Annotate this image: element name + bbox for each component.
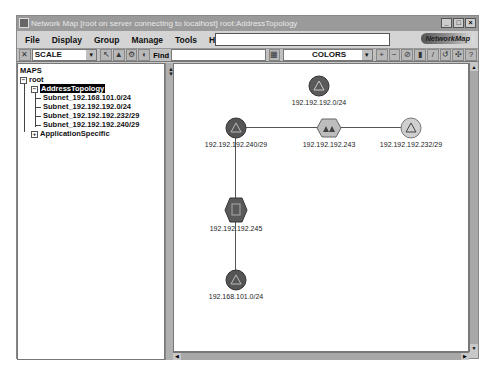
chevron-down-icon: ▼ <box>362 50 372 60</box>
scroll-up-icon[interactable]: ▲ <box>470 63 478 71</box>
menu-file[interactable]: File <box>25 35 40 45</box>
colors-select[interactable]: COLORS ▼ <box>283 49 372 61</box>
tree-node-subnet[interactable]: Subnet_192.192.192.232/29 <box>43 111 139 120</box>
vertical-scrollbar[interactable]: ▲ ▼ <box>469 63 478 352</box>
scale-select-value: SCALE <box>35 50 62 59</box>
close-tool-icon[interactable]: ✕ <box>19 49 31 61</box>
brand-logo: NetworkMap <box>421 33 474 44</box>
toolbar: ✕ SCALE ▼ ↖ ▲ ⚙ ◐ Find ▦ COLORS ▼ + − ⊘ … <box>17 48 478 62</box>
scroll-down-icon[interactable]: ▼ <box>470 344 478 352</box>
tree-node-label: AddressTopology <box>40 84 105 93</box>
menu-group[interactable]: Group <box>94 35 120 45</box>
undo-icon[interactable]: ↺ <box>440 49 452 61</box>
split-pane-divider[interactable]: ▲▼ <box>165 63 173 360</box>
node-label: 192.192.192.245 <box>210 225 263 232</box>
find-input[interactable] <box>171 49 265 61</box>
expand-icon[interactable]: + <box>31 131 38 138</box>
maximize-button[interactable]: □ <box>453 18 464 28</box>
network-layout-icon[interactable]: ⚙ <box>126 49 138 61</box>
scroll-right-icon[interactable]: ▶ <box>461 353 469 360</box>
tree-node-root[interactable]: −root <box>20 75 44 84</box>
collapse-icon[interactable]: − <box>20 77 27 84</box>
context-help-icon[interactable]: / <box>427 49 439 61</box>
close-button[interactable]: × <box>465 18 476 28</box>
node-label: 192.192.192.0/24 <box>292 99 347 106</box>
tree-node-subnet[interactable]: Subnet_192.168.101.0/24 <box>43 93 131 102</box>
menu-manage[interactable]: Manage <box>131 35 163 45</box>
zoom-in-icon[interactable]: + <box>376 49 388 61</box>
filter-tool-icon[interactable]: ◐ <box>138 49 150 61</box>
tree-connector <box>35 116 41 117</box>
minimize-button[interactable]: _ <box>441 18 452 28</box>
tree-connector <box>35 125 41 126</box>
subnet-node-icon[interactable] <box>308 75 330 97</box>
network-map-window: Network Map [root on server connecting t… <box>16 15 479 359</box>
tree-node-label: ApplicationSpecific <box>40 129 110 138</box>
refresh-icon[interactable]: ⊘ <box>401 49 413 61</box>
tree-connector <box>35 107 41 108</box>
zoom-out-icon[interactable]: − <box>389 49 401 61</box>
subnet-node-icon[interactable] <box>225 269 247 291</box>
subnet-node-icon[interactable] <box>400 117 422 139</box>
tree-node-subnet[interactable]: Subnet_192.192.192.240/29 <box>43 120 139 129</box>
tree-node-label: root <box>29 75 44 84</box>
tree-node-application-specific[interactable]: +ApplicationSpecific <box>31 129 110 138</box>
maps-tree-panel: MAPS −root −AddressTopology Subnet_192.1… <box>17 63 165 360</box>
tree-connector <box>24 84 25 132</box>
app-icon <box>19 18 29 28</box>
network-icon[interactable]: ✣ <box>452 49 464 61</box>
alarm-icon[interactable]: ▮ <box>414 49 426 61</box>
tree-node-address-topology[interactable]: −AddressTopology <box>31 84 105 93</box>
tree-node-subnet[interactable]: Subnet_192.192.192.0/24 <box>43 102 131 111</box>
find-label: Find <box>153 51 169 60</box>
title-bar[interactable]: Network Map [root on server connecting t… <box>17 16 478 31</box>
window-title: Network Map [root on server connecting t… <box>31 19 297 28</box>
scroll-left-icon[interactable]: ◀ <box>173 353 181 360</box>
layout-tool-icon[interactable]: ▲ <box>113 49 125 61</box>
status-field <box>215 33 390 46</box>
help-icon[interactable]: ? <box>465 49 477 61</box>
colors-select-value: COLORS <box>312 50 346 59</box>
collapse-icon[interactable]: − <box>31 86 38 93</box>
device-node-icon[interactable] <box>224 197 248 223</box>
menu-tools[interactable]: Tools <box>175 35 197 45</box>
chevron-down-icon: ▼ <box>86 50 96 60</box>
grid-icon[interactable]: ▦ <box>269 49 281 61</box>
node-label: 192.168.101.0/24 <box>209 293 264 300</box>
menu-bar: File Display Group Manage Tools Help Net… <box>17 31 478 48</box>
node-label: 192.192.192.232/29 <box>380 141 442 148</box>
network-map-canvas[interactable]: 192.192.192.0/24 192.192.192.240/29 192.… <box>173 63 469 352</box>
tree-connector <box>35 98 41 99</box>
node-label: 192.192.192.243 <box>303 141 356 148</box>
menu-display[interactable]: Display <box>52 35 82 45</box>
pointer-tool-icon[interactable]: ↖ <box>100 49 112 61</box>
node-label: 192.192.192.240/29 <box>205 141 267 148</box>
tree-header: MAPS <box>20 66 42 75</box>
scale-select[interactable]: SCALE ▼ <box>32 49 97 61</box>
subnet-node-icon[interactable] <box>225 117 247 139</box>
router-node-icon[interactable] <box>316 118 342 138</box>
horizontal-scrollbar[interactable]: ◀ ▶ <box>173 352 469 360</box>
